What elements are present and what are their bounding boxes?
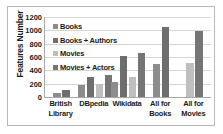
x-tick-label-line: Library <box>44 109 77 119</box>
chart-container: Features Number 120010008006004002000 Bo… <box>7 6 215 126</box>
chart-legend: BooksBooks + AuthorsMoviesMovies + Actor… <box>53 20 145 74</box>
legend-label: Books + Authors <box>60 36 117 45</box>
legend-label: Books <box>60 22 82 31</box>
y-tick-600: 600 <box>29 54 42 61</box>
x-tick-label: DBpedia <box>77 99 110 109</box>
x-tick-label-line: Books <box>144 109 177 119</box>
legend-label: Movies + Actors <box>60 63 114 72</box>
x-tick-label: All forMovies <box>177 99 210 119</box>
legend-swatch-icon <box>53 24 58 29</box>
legend-swatch-icon <box>53 38 58 43</box>
x-tick-label-line: British <box>44 99 77 109</box>
bar <box>129 77 137 97</box>
legend-item: Books + Authors <box>53 34 145 48</box>
bar <box>186 63 194 97</box>
x-axis-tick-labels: BritishLibraryDBpediaWikidataAll forBook… <box>44 99 210 129</box>
bar-group <box>145 17 178 97</box>
bar <box>96 84 104 97</box>
legend-item: Movies + Actors <box>53 61 145 75</box>
y-tick-800: 800 <box>29 40 42 47</box>
x-tick-label-line: Movies <box>177 109 210 119</box>
legend-label: Movies <box>60 49 84 58</box>
bar <box>162 27 170 97</box>
legend-swatch-icon <box>53 65 58 70</box>
x-tick-label-line: All for <box>144 99 177 109</box>
bar <box>111 82 119 97</box>
y-tick-400: 400 <box>29 67 42 74</box>
y-axis-tick-labels: 120010008006004002000 <box>20 17 42 97</box>
x-tick-label: BritishLibrary <box>44 99 77 119</box>
bar-group <box>178 17 211 97</box>
bar <box>62 90 70 97</box>
x-tick-label-line: Wikidata <box>110 99 143 109</box>
y-tick-200: 200 <box>29 80 42 87</box>
bar <box>53 93 61 97</box>
bar <box>87 77 95 97</box>
bar <box>78 85 86 97</box>
x-tick-label: All forBooks <box>144 99 177 119</box>
y-tick-0: 0 <box>38 94 42 101</box>
legend-item: Books <box>53 20 145 34</box>
x-tick-label-line: All for <box>177 99 210 109</box>
x-tick-label-line: DBpedia <box>77 99 110 109</box>
bar <box>153 64 161 97</box>
legend-item: Movies <box>53 47 145 61</box>
legend-swatch-icon <box>53 51 58 56</box>
bar <box>195 31 203 97</box>
y-tick-1000: 1000 <box>25 27 42 34</box>
y-tick-1200: 1200 <box>25 14 42 21</box>
x-tick-label: Wikidata <box>110 99 143 109</box>
